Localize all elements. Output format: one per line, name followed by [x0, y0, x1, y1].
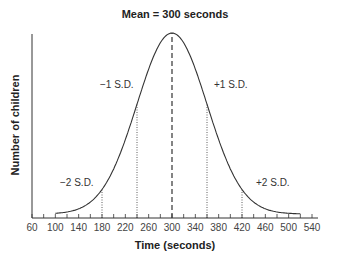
- svg-text:540: 540: [304, 222, 321, 233]
- svg-text:380: 380: [210, 222, 227, 233]
- svg-text:260: 260: [140, 222, 157, 233]
- x-axis-tick-labels: 60100140180220260300340380420460500540: [26, 222, 320, 233]
- svg-text:100: 100: [47, 222, 64, 233]
- svg-text:180: 180: [94, 222, 111, 233]
- sd-label-minus1: −1 S.D.: [100, 79, 134, 90]
- svg-text:140: 140: [70, 222, 87, 233]
- svg-text:460: 460: [257, 222, 274, 233]
- sd-label-minus2: −2 S.D.: [60, 177, 94, 188]
- plot-area: 60100140180220260300340380420460500540 −…: [0, 0, 340, 265]
- svg-text:60: 60: [26, 222, 38, 233]
- svg-text:500: 500: [280, 222, 297, 233]
- sd-lines: [102, 33, 242, 218]
- svg-text:340: 340: [187, 222, 204, 233]
- sd-label-plus2: +2 S.D.: [256, 177, 290, 188]
- sd-label-plus1: +1 S.D.: [214, 79, 248, 90]
- svg-text:300: 300: [164, 222, 181, 233]
- svg-text:420: 420: [234, 222, 251, 233]
- svg-text:220: 220: [117, 222, 134, 233]
